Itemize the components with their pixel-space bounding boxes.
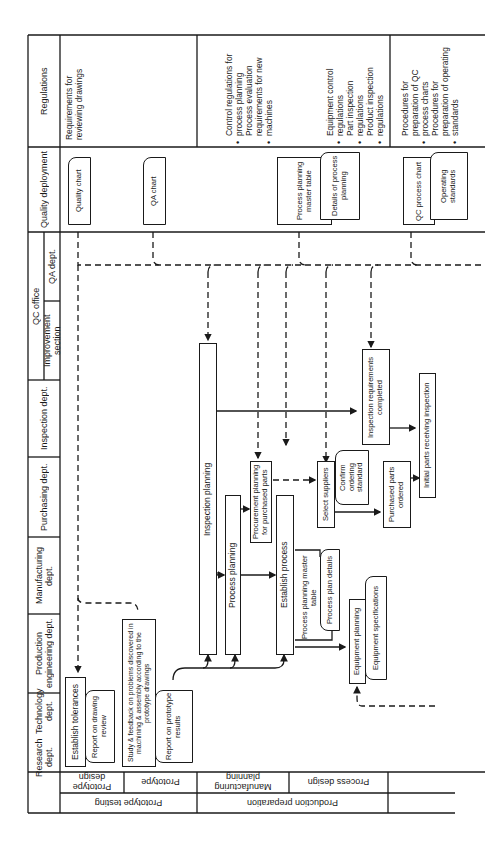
regulations-process-design-b: Procedures for preparation of QC process… bbox=[400, 38, 462, 144]
column-header-regulations: Regulations bbox=[28, 35, 60, 147]
node-label: Report on drawing review bbox=[91, 691, 108, 762]
doc-qa-chart: QA chart bbox=[143, 157, 166, 225]
doc-operating-standards: Operating standards bbox=[430, 152, 468, 220]
production-preparation-label: Production preparation bbox=[247, 798, 338, 808]
node-equipment-specifications: Equipment specifications bbox=[365, 576, 387, 680]
phase-step-prototype: Prototype bbox=[124, 772, 197, 793]
column-header-research: Research dept. Technology dept. bbox=[28, 693, 60, 772]
qa-dept-label: QA dept. bbox=[47, 249, 57, 284]
doc-label: Quality chart bbox=[75, 170, 84, 213]
node-label: Process planning bbox=[228, 542, 238, 607]
regulation-text: Control regulations for process planning bbox=[224, 38, 244, 144]
column-header-production-engineering: Production engineering dept. bbox=[28, 614, 60, 693]
node-equipment-planning: Equipment planning bbox=[349, 599, 366, 684]
inspection-dept-label: Inspection dept. bbox=[39, 387, 49, 451]
phase-prototype-testing: Prototype testing bbox=[60, 793, 197, 813]
process-design-label: Process design bbox=[308, 778, 370, 788]
node-label: Purchased parts ordered bbox=[388, 462, 405, 527]
node-label: Procurement planning for purchased parts bbox=[252, 462, 269, 542]
phase-step-prototype-design: Prototype design bbox=[60, 772, 124, 793]
node-select-suppliers: Select suppliers bbox=[317, 461, 335, 528]
doc-label: Operating standards bbox=[440, 153, 457, 219]
prototype-testing-label: Prototype testing bbox=[95, 798, 163, 808]
quality-deployment-label: Quality deployment bbox=[39, 151, 49, 228]
node-label: Inspection requirements completed bbox=[367, 350, 384, 444]
production-engineering-dept-label: Production engineering dept. bbox=[34, 614, 55, 693]
node-label: Initial parts receiving inspection bbox=[423, 383, 432, 489]
column-header-improvement-section: Improvement section bbox=[44, 301, 60, 380]
phase-production-preparation: Production preparation bbox=[197, 793, 388, 813]
phase-step-process-design: Process design bbox=[289, 772, 388, 793]
node-establish-tolerances: Establish tolerances bbox=[65, 677, 86, 767]
manufacturing-planning-label: Manufacturing planning bbox=[197, 773, 289, 793]
node-study-feedback: Study & feedback on problems discovered … bbox=[122, 619, 156, 767]
node-purchased-parts-ordered: Purchased parts ordered bbox=[383, 461, 411, 528]
regulations-process-design-a: Equipment control regulations Part inspe… bbox=[325, 38, 387, 144]
improvement-section-label: Improvement section bbox=[42, 301, 63, 380]
regulations-label: Regulations bbox=[39, 67, 49, 115]
node-procurement-planning: Procurement planning for purchased parts bbox=[250, 461, 272, 543]
node-label: Report on prototype results bbox=[165, 691, 182, 762]
regulation-text: Part inspection regulations bbox=[345, 38, 365, 144]
node-label: Inspection planning bbox=[203, 462, 213, 535]
regulation-text: Procedures for preparation of QC process… bbox=[400, 38, 430, 144]
doc-label: QA chart bbox=[150, 176, 159, 206]
doc-quality-chart: Quality chart bbox=[68, 157, 91, 225]
regulation-text: Process evaluation requirements for new … bbox=[244, 38, 274, 144]
prototype-label: Prototype bbox=[141, 778, 180, 788]
node-label: Select suppliers bbox=[322, 468, 331, 522]
node-establish-process: Establish process bbox=[276, 495, 294, 655]
regulation-text: Equipment control regulations bbox=[325, 38, 345, 144]
doc-label: Process planning master table bbox=[296, 158, 313, 224]
node-label: Equipment specifications bbox=[372, 586, 381, 670]
column-header-purchasing: Purchasing dept. bbox=[28, 457, 60, 537]
column-header-manufacturing: Manufacturing dept. bbox=[28, 537, 60, 614]
node-label: Establish tolerances bbox=[71, 684, 81, 760]
node-process-planning: Process planning bbox=[225, 495, 241, 655]
node-initial-parts-receiving-inspection: Initial parts receiving inspection bbox=[419, 373, 436, 498]
regulations-manufacturing-planning: Control regulations for process planning… bbox=[224, 38, 274, 144]
purchasing-dept-label: Purchasing dept. bbox=[39, 463, 49, 531]
node-report-prototype-results: Report on prototype results bbox=[155, 690, 193, 763]
manufacturing-dept-label: Manufacturing dept. bbox=[34, 537, 55, 614]
node-inspection-requirements-completed: Inspection requirements completed bbox=[362, 349, 390, 445]
regulation-text: Procedures for preparation of operating … bbox=[430, 38, 460, 144]
node-label: Confirm ordering standard bbox=[339, 451, 365, 504]
column-header-qa-dept: QA dept. bbox=[44, 232, 60, 301]
quality-assurance-flow-diagram: Regulations Quality deployment QC office… bbox=[0, 0, 485, 850]
node-process-plan-details: Process plan details bbox=[320, 549, 340, 631]
node-report-drawing-review: Report on drawing review bbox=[85, 690, 115, 763]
doc-label: Details of process planning bbox=[331, 153, 348, 219]
doc-details-of-process-planning: Details of process planning bbox=[320, 152, 360, 220]
node-label: Establish process bbox=[280, 542, 290, 609]
node-confirm-ordering-standard: Confirm ordering standard bbox=[335, 450, 369, 505]
column-header-quality-deployment: Quality deployment bbox=[28, 147, 60, 232]
technology-dept-label: Technology dept. bbox=[34, 688, 55, 734]
qc-office-label: QC office bbox=[31, 287, 41, 324]
prototype-design-label: Prototype design bbox=[60, 773, 124, 793]
node-label: Process plan details bbox=[326, 556, 335, 624]
research-dept-label: Research dept. bbox=[34, 738, 55, 777]
phase-step-manufacturing-planning: Manufacturing planning bbox=[197, 772, 289, 793]
node-label: Process planning master table bbox=[301, 555, 318, 640]
node-label: Study & feedback on problems discovered … bbox=[127, 620, 151, 766]
regulations-prototype: Requirements for reviewing drawings bbox=[64, 40, 92, 140]
regulation-text: Product inspection regulations bbox=[365, 38, 385, 144]
regulation-text: Requirements for reviewing drawings bbox=[64, 40, 84, 140]
doc-label: QC process chart bbox=[415, 161, 424, 220]
node-inspection-planning: Inspection planning bbox=[199, 343, 217, 655]
node-label: Equipment planning bbox=[353, 608, 362, 675]
column-header-inspection: Inspection dept. bbox=[28, 380, 60, 457]
